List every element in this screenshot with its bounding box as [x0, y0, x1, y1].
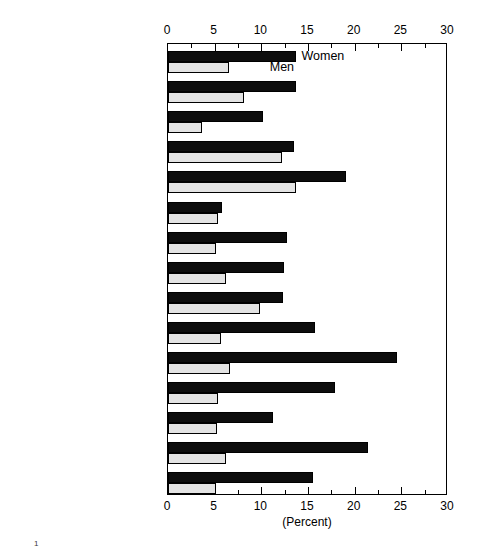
- axis-tick-label-15: 15: [292, 500, 322, 512]
- axis-tick-mark: [425, 490, 426, 494]
- bar-women: [168, 171, 346, 182]
- bar-men: [168, 333, 221, 344]
- axis-tick-mark: [238, 490, 239, 494]
- axis-tick-mark: [331, 490, 332, 494]
- bar-men: [168, 243, 216, 254]
- bar-men: [168, 483, 216, 494]
- axis-tick-mark: [401, 44, 402, 51]
- axis-tick-mark: [215, 44, 216, 51]
- bar-men: [168, 273, 226, 284]
- bar-men: [168, 62, 229, 73]
- bar-women: [168, 382, 335, 393]
- axis-tick-mark: [261, 44, 262, 51]
- axis-tick-mark: [425, 44, 426, 48]
- legend-label-women: Women: [301, 50, 344, 63]
- axis-tick-mark: [331, 44, 332, 48]
- axis-tick-mark: [191, 44, 192, 48]
- bar-women: [168, 262, 284, 273]
- bar-women: [168, 472, 313, 483]
- bar-women: [168, 442, 368, 453]
- axis-tick-label-10: 10: [245, 500, 275, 512]
- axis-tick-mark: [355, 44, 356, 51]
- axis-tick-label-0: 0: [152, 500, 182, 512]
- bar-men: [168, 92, 244, 103]
- bar-women: [168, 202, 222, 213]
- bar-chart: 051015202530 051015202530 (Percent) Tota…: [0, 0, 479, 558]
- axis-tick-label-15: 15: [292, 24, 322, 36]
- axis-tick-label-5: 5: [199, 500, 229, 512]
- axis-tick-label-25: 25: [385, 24, 415, 36]
- bar-men: [168, 423, 217, 434]
- axis-tick-mark: [378, 44, 379, 48]
- bar-men: [168, 182, 296, 193]
- axis-tick-label-20: 20: [339, 24, 369, 36]
- axis-tick-mark: [285, 490, 286, 494]
- plot-area: WomenMen: [167, 43, 447, 495]
- axis-tick-mark: [355, 487, 356, 494]
- axis-tick-mark: [401, 487, 402, 494]
- x-axis-unit-label: (Percent): [247, 516, 367, 529]
- axis-tick-mark: [238, 44, 239, 48]
- axis-tick-label-5: 5: [199, 24, 229, 36]
- axis-tick-mark: [285, 44, 286, 48]
- bar-women: [168, 292, 283, 303]
- bar-women: [168, 111, 263, 122]
- axis-tick-label-0: 0: [152, 24, 182, 36]
- axis-tick-label-30: 30: [432, 24, 462, 36]
- axis-tick-label-20: 20: [339, 500, 369, 512]
- bar-women: [168, 141, 294, 152]
- bar-men: [168, 213, 218, 224]
- footnote-marker: 1: [34, 539, 38, 548]
- footnote: 1: [34, 538, 38, 553]
- bar-men: [168, 122, 202, 133]
- axis-tick-mark: [308, 487, 309, 494]
- axis-tick-label-30: 30: [432, 500, 462, 512]
- bar-women: [168, 81, 296, 92]
- axis-tick-mark: [378, 490, 379, 494]
- bar-men: [168, 453, 226, 464]
- bar-men: [168, 363, 230, 374]
- axis-tick-mark: [261, 487, 262, 494]
- axis-tick-label-10: 10: [245, 24, 275, 36]
- bar-men: [168, 152, 282, 163]
- bar-men: [168, 303, 260, 314]
- bar-men: [168, 393, 218, 404]
- bar-women: [168, 412, 273, 423]
- bar-women: [168, 352, 397, 363]
- axis-tick-label-25: 25: [385, 500, 415, 512]
- bar-women: [168, 322, 315, 333]
- bar-women: [168, 232, 287, 243]
- legend-label-men: Men: [270, 61, 294, 74]
